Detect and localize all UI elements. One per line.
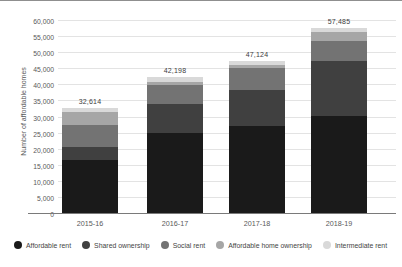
bar-segment (62, 160, 118, 213)
y-tick-label: 0 (16, 211, 54, 218)
bar-segment (62, 112, 118, 125)
chart-legend: Affordable rentShared ownershipSocial re… (14, 241, 396, 249)
stacked-bar-2015-16 (62, 108, 118, 213)
bar-segment (229, 126, 285, 213)
y-tick-label: 60,000 (16, 18, 54, 25)
y-tick-label: 50,000 (16, 50, 54, 57)
bar-total-label: 32,614 (55, 98, 125, 105)
x-axis-label: 2017-18 (222, 219, 292, 228)
legend-item: Intermediate rent (323, 241, 387, 249)
legend-item: Affordable rent (14, 241, 71, 249)
chart-page: Number of affordable homes 05,00010,0001… (0, 0, 402, 267)
bar-segment (229, 90, 285, 126)
legend-label: Affordable home ownership (228, 242, 312, 249)
x-axis-labels: 2015-162016-172017-182018-19 (58, 219, 396, 231)
bar-segment (147, 133, 203, 213)
bar-segment (62, 125, 118, 147)
y-tick-label: 15,000 (16, 162, 54, 169)
stacked-bar-2018-19 (311, 28, 367, 213)
legend-label: Affordable rent (26, 242, 71, 249)
plot-area: 32,61442,19847,12457,485 (58, 18, 396, 214)
x-axis-label: 2016-17 (140, 219, 210, 228)
y-tick-label: 30,000 (16, 114, 54, 121)
bar-segment (311, 41, 367, 61)
legend-label: Shared ownership (94, 242, 150, 249)
bar-segment (229, 68, 285, 89)
legend-item: Shared ownership (82, 241, 150, 249)
bar-total-label: 47,124 (222, 51, 292, 58)
legend-dot-icon (82, 241, 90, 249)
legend-item: Social rent (161, 241, 206, 249)
y-tick-label: 35,000 (16, 98, 54, 105)
bar-segment (311, 32, 367, 42)
legend-dot-icon (14, 241, 22, 249)
y-axis: 05,00010,00015,00020,00025,00030,00035,0… (16, 18, 54, 214)
bar-segment (62, 147, 118, 160)
y-tick-label: 10,000 (16, 178, 54, 185)
y-tick-label: 5,000 (16, 194, 54, 201)
legend-dot-icon (323, 241, 331, 249)
x-axis-label: 2015-16 (55, 219, 125, 228)
bar-total-label: 42,198 (140, 67, 210, 74)
bar-segment (147, 104, 203, 133)
bar-segment (311, 116, 367, 213)
stacked-bar-2016-17 (147, 77, 203, 213)
y-tick-label: 45,000 (16, 66, 54, 73)
bar-segment (147, 85, 203, 104)
stacked-bar-2017-18 (229, 61, 285, 213)
legend-label: Social rent (173, 242, 206, 249)
x-axis-label: 2018-19 (304, 219, 374, 228)
y-tick-label: 25,000 (16, 130, 54, 137)
legend-label: Intermediate rent (335, 242, 387, 249)
legend-dot-icon (216, 241, 224, 249)
y-tick-label: 40,000 (16, 82, 54, 89)
legend-dot-icon (161, 241, 169, 249)
x-axis-line (28, 213, 396, 214)
bar-total-label: 57,485 (304, 18, 374, 25)
bar-segment (311, 61, 367, 116)
y-tick-label: 55,000 (16, 34, 54, 41)
y-tick-label: 20,000 (16, 146, 54, 153)
legend-item: Affordable home ownership (216, 241, 312, 249)
